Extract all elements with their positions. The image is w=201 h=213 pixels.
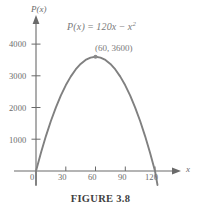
equation-term-linear: 120x [96, 21, 116, 32]
x-axis-label: x [186, 164, 190, 174]
origin-label: 0 [30, 172, 34, 182]
vertex-point-label: (60, 3600) [95, 43, 133, 53]
x-axis-arrow-icon [172, 168, 181, 175]
equation-exponent: 2 [132, 20, 136, 27]
y-tick-label-3000: 3000 [9, 71, 26, 81]
x-tick-label-30: 30 [58, 172, 67, 182]
y-axis-label: P(x) [31, 4, 47, 14]
y-tick-label-1000: 1000 [9, 135, 26, 145]
y-axis-arrow-icon [33, 15, 40, 24]
y-tick-label-4000: 4000 [9, 39, 26, 49]
y-tick-label-2000: 2000 [9, 103, 26, 113]
x-tick-label-60: 60 [88, 172, 97, 182]
x-tick-label-120: 120 [145, 172, 158, 182]
x-tick-label-90: 90 [118, 172, 127, 182]
parabola-curve [36, 57, 158, 185]
figure-container: P(x) x 0 30 60 90 120 1000 2000 3000 400… [0, 0, 201, 213]
vertex-point-marker [94, 55, 98, 59]
figure-caption: FIGURE 3.8 [0, 193, 201, 204]
equation-annotation: P(x) = 120x − x2 [67, 21, 136, 32]
equation-function: P(x) [67, 21, 85, 32]
